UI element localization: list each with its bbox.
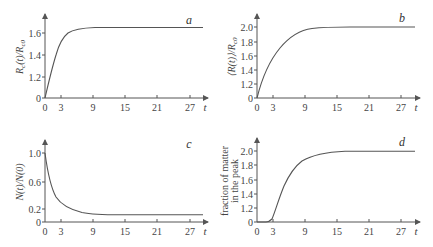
svg-text:1.6: 1.6	[29, 28, 42, 39]
y-axis-label-line2: in the peak	[229, 159, 240, 203]
svg-text:3: 3	[59, 102, 64, 113]
x-axis-label: t	[414, 101, 418, 113]
svg-text:1.2: 1.2	[29, 72, 42, 83]
svg-text:0: 0	[248, 93, 253, 104]
panel-d: 2.0 1.8 1.6 1.4 1.2 0 0 3 9 15 21 27 t d…	[219, 135, 420, 237]
svg-text:1.2: 1.2	[241, 203, 254, 214]
svg-text:9: 9	[91, 226, 96, 237]
svg-text:9: 9	[91, 102, 96, 113]
svg-text:3: 3	[59, 226, 64, 237]
curve-b	[257, 27, 415, 98]
y-axis-label: ⟨R(t)⟩/Rc0	[226, 37, 239, 77]
svg-text:3: 3	[271, 102, 276, 113]
svg-text:0: 0	[36, 93, 41, 104]
svg-text:15: 15	[120, 226, 130, 237]
panel-letter: c	[186, 137, 192, 151]
x-axis-label: t	[203, 101, 207, 113]
svg-text:27: 27	[396, 102, 406, 113]
svg-text:1.6: 1.6	[241, 51, 254, 62]
svg-text:0: 0	[43, 226, 48, 237]
y-ticks: 2.0 1.8 1.6 1.4 1.2 0	[241, 22, 258, 104]
svg-text:0: 0	[36, 217, 41, 228]
svg-text:1.6: 1.6	[241, 175, 254, 186]
y-axis-label: Rc(t)/Rc0	[14, 39, 27, 75]
y-ticks: 2.0 1.8 1.6 1.4 1.2 0	[241, 146, 258, 228]
svg-text:21: 21	[364, 102, 374, 113]
svg-text:1.0: 1.0	[29, 148, 42, 159]
panel-c: 1.0 0.6 0.2 0 0 3 9 15 21 27 t c N(t)/N(…	[14, 137, 208, 237]
svg-text:9: 9	[303, 226, 308, 237]
y-ticks: 1.0 0.6 0.2 0	[29, 148, 46, 228]
svg-text:0: 0	[255, 102, 260, 113]
svg-text:1.4: 1.4	[241, 65, 254, 76]
svg-text:21: 21	[152, 226, 162, 237]
svg-text:2.0: 2.0	[241, 146, 254, 157]
svg-text:27: 27	[185, 226, 195, 237]
svg-text:0: 0	[248, 217, 253, 228]
svg-text:0: 0	[255, 226, 260, 237]
svg-text:27: 27	[185, 102, 195, 113]
svg-text:27: 27	[396, 226, 406, 237]
panel-letter: d	[399, 135, 406, 149]
panel-letter: b	[399, 11, 405, 25]
panel-letter: a	[186, 13, 192, 27]
svg-text:0.6: 0.6	[29, 177, 42, 188]
svg-text:15: 15	[332, 102, 342, 113]
svg-text:15: 15	[120, 102, 130, 113]
svg-text:0.2: 0.2	[29, 204, 42, 215]
svg-text:1.4: 1.4	[241, 189, 254, 200]
panel-b: 2.0 1.8 1.6 1.4 1.2 0 0 3 9 15 21 27 t b…	[226, 11, 420, 113]
curve-c	[45, 153, 203, 215]
figure: 1.6 1.4 1.2 0 0 3 9 15 21 27 t a Rc(t)/R…	[0, 0, 433, 247]
svg-text:1.8: 1.8	[241, 160, 254, 171]
svg-text:3: 3	[271, 226, 276, 237]
svg-text:1.8: 1.8	[241, 37, 254, 48]
svg-text:0: 0	[43, 102, 48, 113]
x-axis-label: t	[414, 225, 418, 237]
svg-text:9: 9	[303, 102, 308, 113]
curve-a	[45, 28, 203, 99]
svg-text:21: 21	[364, 226, 374, 237]
y-axis-label: N(t)/N(0)	[14, 163, 26, 202]
svg-text:2.0: 2.0	[241, 22, 254, 33]
svg-text:15: 15	[332, 226, 342, 237]
svg-text:1.2: 1.2	[241, 79, 254, 90]
svg-text:21: 21	[152, 102, 162, 113]
panel-a: 1.6 1.4 1.2 0 0 3 9 15 21 27 t a Rc(t)/R…	[14, 13, 208, 113]
x-axis-label: t	[203, 225, 207, 237]
svg-text:1.4: 1.4	[29, 50, 42, 61]
curve-d	[257, 151, 415, 222]
y-ticks: 1.6 1.4 1.2 0	[29, 28, 46, 104]
